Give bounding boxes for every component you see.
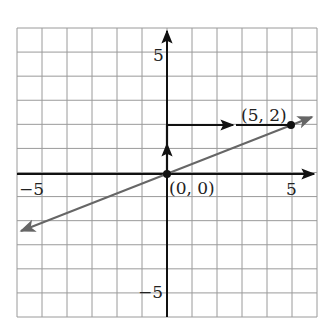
point-5-2-label: (5, 2) bbox=[241, 105, 287, 125]
point-5-2 bbox=[287, 121, 295, 129]
origin-label: (0, 0) bbox=[169, 178, 215, 198]
y-tick-label-5: 5 bbox=[153, 45, 164, 65]
y-tick-label-neg5: −5 bbox=[138, 282, 163, 302]
x-tick-label-neg5: −5 bbox=[19, 179, 44, 199]
origin-point bbox=[163, 170, 171, 178]
coordinate-plane: 5 −5 −5 5 (0, 0) (5, 2) bbox=[0, 0, 333, 333]
x-tick-label-5: 5 bbox=[286, 179, 297, 199]
